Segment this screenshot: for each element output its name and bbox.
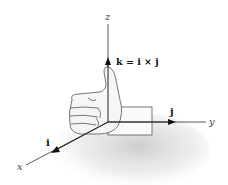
k-arrowhead-icon: [105, 57, 111, 65]
z-axis-label: z: [105, 12, 110, 22]
diagram-graphic: [0, 0, 228, 185]
right-hand-rule-diagram: z y x k = i × j j i: [0, 0, 228, 185]
x-axis-label: x: [17, 162, 23, 172]
k-equation-label: k = i × j: [116, 57, 159, 67]
y-axis-label: y: [209, 117, 215, 127]
j-vector-label: j: [170, 107, 174, 117]
i-vector-label: i: [46, 138, 50, 148]
hand-illustration: [69, 67, 152, 135]
